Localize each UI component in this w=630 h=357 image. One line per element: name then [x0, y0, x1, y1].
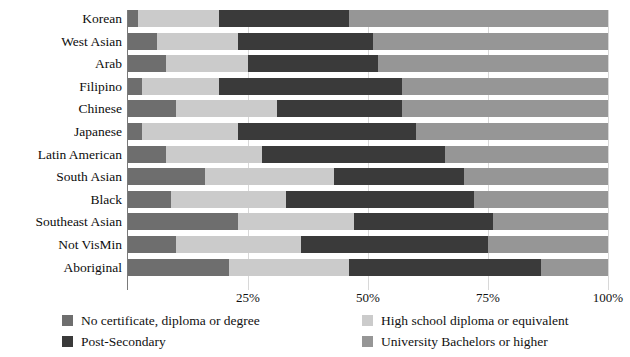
bar-segment	[262, 146, 444, 163]
legend-swatch-icon	[62, 315, 73, 326]
bar-segment	[238, 123, 416, 140]
bar-row	[128, 259, 608, 276]
bar-segment	[402, 100, 608, 117]
bar-segment	[138, 10, 220, 27]
bar-segment	[166, 146, 262, 163]
category-label: Not VisMin	[0, 236, 122, 253]
legend-item: High school diploma or equivalent	[362, 310, 622, 331]
legend-swatch-icon	[362, 315, 373, 326]
plot-area	[128, 10, 608, 288]
bar-segment	[238, 213, 353, 230]
bar-segment	[301, 236, 488, 253]
bar-segment	[166, 55, 248, 72]
bar-row	[128, 236, 608, 253]
legend-label: Post-Secondary	[81, 334, 166, 350]
stacked-bar-chart: KoreanWest AsianArabFilipinoChineseJapan…	[0, 0, 630, 357]
bar-row	[128, 10, 608, 27]
bar-segment	[128, 259, 229, 276]
bar-segment	[238, 33, 372, 50]
bar-row	[128, 123, 608, 140]
bar-row	[128, 146, 608, 163]
x-tick-label: 75%	[476, 290, 500, 306]
legend-item: University Bachelors or higher	[362, 331, 622, 352]
bar-segment	[128, 168, 205, 185]
bar-row	[128, 213, 608, 230]
legend-item: No certificate, diploma or degree	[62, 310, 362, 331]
bar-segment	[205, 168, 335, 185]
bar-segment	[128, 33, 157, 50]
bar-row	[128, 33, 608, 50]
bar-segment	[445, 146, 608, 163]
bar-segment	[402, 78, 608, 95]
category-label: Southeast Asian	[0, 213, 122, 230]
bar-segment	[248, 55, 378, 72]
bar-segment	[286, 191, 473, 208]
legend-swatch-icon	[62, 336, 73, 347]
bar-segment	[334, 168, 464, 185]
bar-segment	[349, 10, 608, 27]
category-label: Aboriginal	[0, 259, 122, 276]
bar-segment	[373, 33, 608, 50]
legend-item: Post-Secondary	[62, 331, 362, 352]
bar-segment	[142, 123, 238, 140]
category-label: South Asian	[0, 168, 122, 185]
gridline-100	[608, 10, 609, 290]
bar-segment	[349, 259, 541, 276]
bar-segment	[128, 123, 142, 140]
category-label: Chinese	[0, 100, 122, 117]
bar-segment	[128, 10, 138, 27]
bar-segment	[128, 78, 142, 95]
bar-segment	[354, 213, 493, 230]
bar-segment	[219, 10, 349, 27]
bar-row	[128, 191, 608, 208]
bar-segment	[128, 191, 171, 208]
category-label: Latin American	[0, 146, 122, 163]
legend-label: No certificate, diploma or degree	[81, 313, 260, 329]
bar-row	[128, 78, 608, 95]
bar-segment	[219, 78, 401, 95]
bar-segment	[416, 123, 608, 140]
legend-label: University Bachelors or higher	[381, 334, 548, 350]
bar-row	[128, 168, 608, 185]
bar-segment	[541, 259, 608, 276]
category-label: Korean	[0, 10, 122, 27]
category-label: Japanese	[0, 123, 122, 140]
bar-segment	[176, 236, 301, 253]
legend-label: High school diploma or equivalent	[381, 313, 568, 329]
bar-segment	[229, 259, 349, 276]
category-label: Filipino	[0, 78, 122, 95]
bar-segment	[128, 55, 166, 72]
bar-segment	[128, 236, 176, 253]
bar-segment	[128, 100, 176, 117]
legend-swatch-icon	[362, 336, 373, 347]
bar-segment	[176, 100, 277, 117]
bar-segment	[128, 213, 238, 230]
category-label: Black	[0, 191, 122, 208]
bar-segment	[171, 191, 286, 208]
bar-row	[128, 55, 608, 72]
bar-segment	[488, 236, 608, 253]
bar-segment	[128, 146, 166, 163]
bar-segment	[157, 33, 239, 50]
bar-segment	[378, 55, 608, 72]
bar-segment	[474, 191, 608, 208]
x-tick-label: 100%	[593, 290, 623, 306]
bar-segment	[277, 100, 402, 117]
bar-segment	[493, 213, 608, 230]
bar-segment	[464, 168, 608, 185]
category-label: Arab	[0, 55, 122, 72]
bar-segment	[142, 78, 219, 95]
category-label: West Asian	[0, 33, 122, 50]
x-tick-label: 25%	[236, 290, 260, 306]
chart-legend: No certificate, diploma or degreeHigh sc…	[62, 310, 622, 352]
x-tick-label: 50%	[356, 290, 380, 306]
bar-row	[128, 100, 608, 117]
